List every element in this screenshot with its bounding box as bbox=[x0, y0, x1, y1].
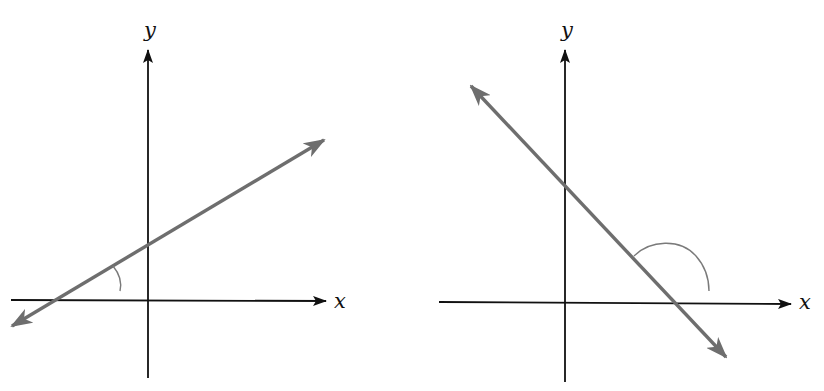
figure-canvas: y x y x bbox=[0, 0, 824, 391]
left-line-positive-slope bbox=[12, 140, 324, 326]
left-y-axis-label: y bbox=[143, 18, 157, 42]
right-angle-arc-obtuse bbox=[634, 243, 709, 291]
left-angle-arc-acute bbox=[113, 266, 121, 291]
right-x-axis-label: x bbox=[799, 290, 811, 314]
right-panel: y x bbox=[439, 18, 811, 382]
right-x-axis bbox=[439, 302, 791, 304]
left-panel: y x bbox=[11, 18, 346, 378]
left-x-axis-label: x bbox=[334, 289, 346, 313]
right-y-axis-label: y bbox=[560, 18, 574, 42]
right-line-negative-slope bbox=[471, 86, 726, 357]
